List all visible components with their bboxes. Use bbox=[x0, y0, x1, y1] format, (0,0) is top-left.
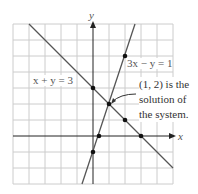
equation-label-1: x + y = 3 bbox=[33, 75, 73, 86]
equation-label-2: 3x − y = 1 bbox=[127, 58, 172, 69]
annotation-line: the system. bbox=[139, 107, 189, 122]
annotation-line: (1, 2) is the bbox=[139, 77, 189, 92]
solution-annotation: (1, 2) is the solution of the system. bbox=[139, 77, 189, 122]
annotation-line: solution of bbox=[139, 92, 189, 107]
x-axis-label: x bbox=[178, 131, 183, 142]
graph-figure: y x x + y = 3 3x − y = 1 (1, 2) is the s… bbox=[0, 0, 198, 194]
y-axis-label: y bbox=[89, 10, 94, 21]
